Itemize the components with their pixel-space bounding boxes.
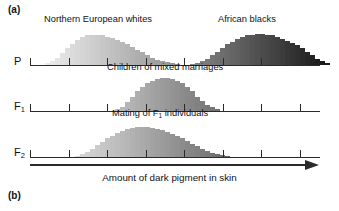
- histogram-f1: [30, 71, 320, 111]
- axis-tick: [30, 150, 31, 157]
- caption-northern-european-whites: Northern European whites: [44, 14, 152, 24]
- axis-tick: [300, 104, 301, 111]
- axis-tick: [261, 150, 262, 157]
- figure-polygenic-inheritance: (a) P Northern European whites African b…: [0, 0, 339, 211]
- axis-tick: [261, 104, 262, 111]
- axis-tick: [30, 104, 31, 111]
- arrow-line: [30, 164, 308, 166]
- chart-row-f2: F2 Mating of F1 individuals: [0, 112, 339, 158]
- histogram-f2: [30, 117, 320, 157]
- axis-tick: [107, 104, 108, 111]
- axis-tick: [300, 150, 301, 157]
- axis-title: Amount of dark pigment in skin: [0, 172, 339, 183]
- axis-tick: [69, 58, 70, 65]
- histogram-bar: [325, 63, 330, 65]
- panel-label-a: (a): [8, 4, 20, 15]
- caption-african-blacks: African blacks: [218, 14, 276, 24]
- panel-label-b: (b): [8, 190, 21, 201]
- axis-line-f2: [30, 157, 320, 158]
- axis-tick: [223, 104, 224, 111]
- axis-tick: [69, 150, 70, 157]
- right-arrow-icon: [305, 160, 319, 170]
- axis-tick: [146, 150, 147, 157]
- axis-tick: [223, 150, 224, 157]
- axis-tick: [69, 104, 70, 111]
- generation-label-f2: F2: [14, 147, 25, 159]
- axis-tick: [261, 58, 262, 65]
- axis-tick: [300, 58, 301, 65]
- pigment-axis-arrow: [30, 160, 320, 172]
- histogram-p: [30, 25, 320, 65]
- axis-tick: [184, 150, 185, 157]
- axis-tick: [30, 58, 31, 65]
- chart-row-f1: F1 Children of mixed marriages: [0, 66, 339, 112]
- axis-tick: [107, 150, 108, 157]
- chart-row-p: P Northern European whites African black…: [0, 20, 339, 66]
